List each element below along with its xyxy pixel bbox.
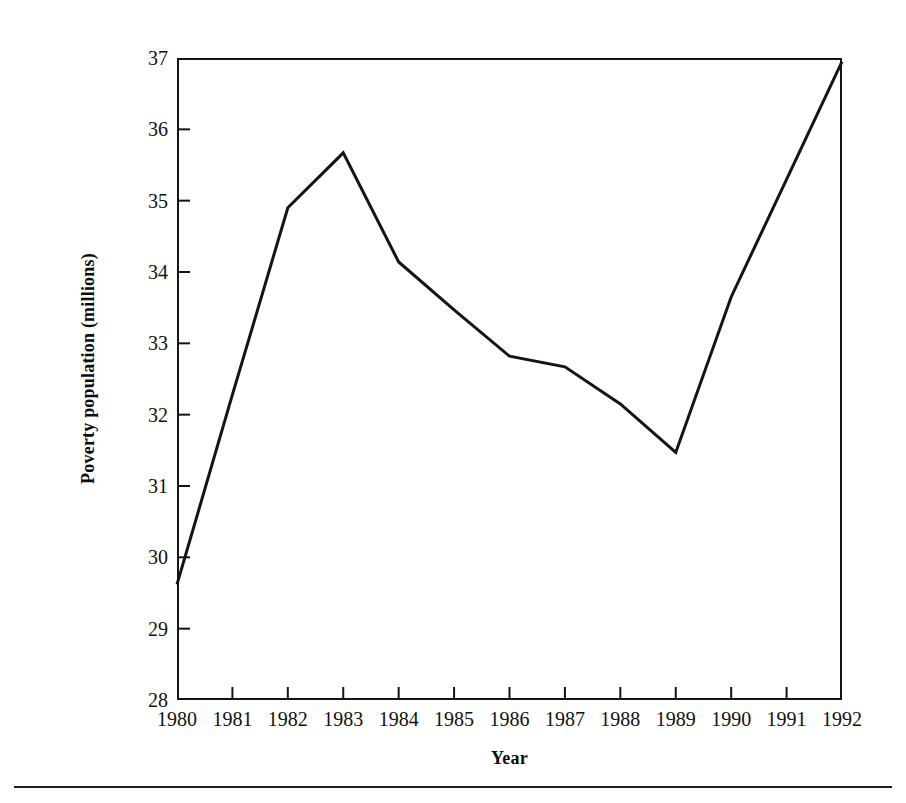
line-chart-figure: 37363534333231302928 1980198119821983198… (0, 0, 906, 770)
x-axis-tick-labels: 1980198119821983198419851986198719881989… (0, 707, 906, 741)
y-tick-label: 31 (128, 476, 168, 496)
y-axis-tick-labels: 37363534333231302928 (90, 0, 168, 770)
y-axis-title: Poverty population (millions) (78, 159, 99, 579)
y-tick-label: 32 (128, 405, 168, 425)
x-axis-title: Year (177, 748, 842, 769)
y-tick-label: 36 (128, 119, 168, 139)
y-tick-label: 34 (128, 262, 168, 282)
y-tick-label: 30 (128, 547, 168, 567)
page-horizontal-rule (14, 786, 892, 788)
y-tick-label: 29 (128, 619, 168, 639)
y-tick-label: 33 (128, 333, 168, 353)
y-tick-label: 35 (128, 191, 168, 211)
x-tick-label: 1992 (807, 707, 877, 731)
y-tick-label: 37 (128, 48, 168, 68)
figure-page: · · · · · · 37363534333231302928 1980198… (0, 0, 906, 803)
plot-area-frame (177, 58, 842, 700)
